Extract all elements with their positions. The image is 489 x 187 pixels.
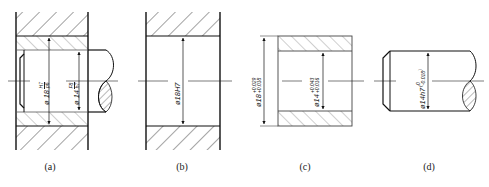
caption-a: (a) [44, 161, 55, 172]
dim-a-outer: ø 18H7p6 [35, 61, 53, 105]
panel-d-shaft [374, 51, 484, 111]
caption-c: (c) [299, 161, 310, 172]
caption-d: (d) [423, 161, 435, 172]
shaft-break-section [99, 81, 113, 112]
caption-b: (b) [176, 161, 188, 172]
dim-c-outer: ø18+0.029+0.018 [247, 59, 265, 107]
dim-a-inner: ø 14F8h7 [65, 61, 83, 105]
housing-bottom-section [16, 126, 88, 150]
dim-d-shaft: ø14h7(0-0.018) [411, 57, 429, 109]
dim-c-inner: ø14+0.043+0.016 [305, 59, 323, 107]
panel-b-housing [138, 12, 232, 150]
housing-top-section [16, 12, 88, 36]
bushing-top-section [16, 36, 88, 50]
panel-a-assembly [8, 12, 118, 150]
bushing-bottom-section [16, 112, 88, 126]
dim-b-bore: ø18H7 [166, 65, 184, 105]
engineering-drawing-figure: ø 18H7p6 ø 14F8h7 ø18H7 ø18+0.029+0.018 … [0, 0, 489, 187]
